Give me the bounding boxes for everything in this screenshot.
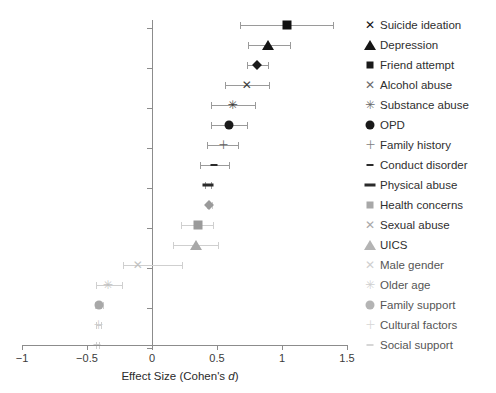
legend-item-label: UICS: [380, 236, 407, 254]
data-point-marker: [262, 40, 274, 50]
x-tick-label: 0: [132, 352, 172, 364]
x-tick: [152, 345, 153, 350]
data-row: ＋: [0, 137, 360, 153]
x-tick: [22, 345, 23, 350]
x-icon: ✕: [365, 79, 375, 91]
data-point-marker: [202, 184, 213, 187]
data-row: [0, 237, 360, 253]
legend-item: ＋Cultural factors: [364, 316, 496, 334]
legend-item-label: Friend attempt: [380, 56, 454, 74]
legend-item-label: OPD: [380, 116, 405, 134]
data-point-marker: ✳: [228, 99, 238, 111]
legend-item: Friend attempt: [364, 56, 496, 74]
confidence-interval-cap: [96, 282, 97, 289]
confidence-interval-cap: [247, 122, 248, 129]
data-row: [0, 117, 360, 133]
legend-item-label: Cultural factors: [380, 316, 457, 334]
legend-item-label: Family support: [380, 296, 455, 314]
data-row: [0, 37, 360, 53]
confidence-interval-cap: [218, 242, 219, 249]
data-row: [0, 297, 360, 313]
legend-item-label: Substance abuse: [380, 96, 469, 114]
small-dash-icon: [367, 164, 374, 166]
legend-item-label: Social support: [380, 336, 453, 354]
x-axis-title-end: ): [235, 370, 239, 382]
filled-triangle-icon: [364, 40, 376, 50]
data-row: [0, 177, 360, 193]
data-row: [0, 217, 360, 233]
confidence-interval-cap: [173, 242, 174, 249]
confidence-interval-cap: [269, 82, 270, 89]
confidence-interval-cap: [122, 282, 123, 289]
legend-item-label: Health concerns: [380, 196, 463, 214]
data-point-marker: [252, 60, 262, 70]
filled-diamond-icon: [367, 62, 374, 69]
data-row: [0, 57, 360, 73]
data-row: ✕: [0, 77, 360, 93]
legend-item-label: Conduct disorder: [380, 156, 468, 174]
data-row: ✳: [0, 277, 360, 293]
confidence-interval-cap: [181, 222, 182, 229]
confidence-interval-cap: [182, 262, 183, 269]
legend-item: ✕Male gender: [364, 256, 496, 274]
data-point-marker: [283, 21, 292, 30]
confidence-interval-cap: [213, 222, 214, 229]
confidence-interval-cap: [333, 22, 334, 29]
legend-item-label: Depression: [380, 36, 438, 54]
legend-item: ✳Substance abuse: [364, 96, 496, 114]
confidence-interval-cap: [238, 142, 239, 149]
legend-item: Depression: [364, 36, 496, 54]
confidence-interval-cap: [240, 22, 241, 29]
legend-item-label: Alcohol abuse: [380, 76, 452, 94]
x-tick-label: 1: [262, 352, 302, 364]
legend-item-label: Physical abuse: [380, 176, 457, 194]
confidence-interval-cap: [200, 162, 201, 169]
x-tick-label: −1: [2, 352, 42, 364]
confidence-interval-cap: [255, 102, 256, 109]
confidence-interval-cap: [211, 102, 212, 109]
data-row: [0, 17, 360, 33]
confidence-interval-cap: [268, 62, 269, 69]
filled-square-icon: ✕: [365, 19, 375, 31]
confidence-interval-cap: [229, 162, 230, 169]
x-axis-line: [22, 345, 348, 346]
confidence-interval-cap: [248, 42, 249, 49]
data-row: ✕: [0, 257, 360, 273]
legend: ✕Suicide ideationDepressionFriend attemp…: [364, 0, 496, 393]
small-dash-icon: [367, 344, 374, 346]
x-tick-label: −0.5: [67, 352, 107, 364]
plot-area: ✕✳＋✕✳＋ −1−0.500.511.5 Effect Size (Cohen…: [0, 0, 360, 393]
data-point-marker: [190, 240, 202, 250]
data-row: [0, 197, 360, 213]
legend-item: ✕Suicide ideation: [364, 16, 496, 34]
legend-item: OPD: [364, 116, 496, 134]
x-tick: [282, 345, 283, 350]
star-icon: ✳: [365, 279, 375, 291]
star-icon: ✳: [365, 99, 375, 111]
filled-circle-icon: [366, 301, 375, 310]
plus-icon: ＋: [365, 140, 376, 151]
x-tick-label: 1.5: [327, 352, 367, 364]
x-axis-title-main: Effect Size (Cohen's: [121, 370, 228, 382]
legend-item: ✕Sexual abuse: [364, 216, 496, 234]
legend-item-label: Suicide ideation: [380, 16, 461, 34]
data-point-marker: ✕: [133, 259, 143, 271]
x-icon: ✕: [365, 259, 375, 271]
forest-plot-figure: ✕✳＋✕✳＋ −1−0.500.511.5 Effect Size (Cohen…: [0, 0, 496, 393]
filled-square-icon: ✕: [365, 219, 375, 231]
data-point-marker: ＋: [218, 140, 229, 151]
legend-item: Social support: [364, 336, 496, 354]
data-row: [0, 157, 360, 173]
confidence-interval-cap: [247, 62, 248, 69]
data-row: ＋: [0, 317, 360, 333]
legend-item-label: Older age: [380, 276, 431, 294]
legend-item: Physical abuse: [364, 176, 496, 194]
legend-item-label: Sexual abuse: [380, 216, 450, 234]
data-point-marker: ＋: [93, 320, 104, 331]
data-point-marker: [224, 121, 233, 130]
data-point-marker: ✳: [103, 279, 113, 291]
confidence-interval-cap: [290, 42, 291, 49]
confidence-interval-cap: [123, 262, 124, 269]
legend-item: ✕Alcohol abuse: [364, 76, 496, 94]
data-point-marker: [94, 301, 103, 310]
